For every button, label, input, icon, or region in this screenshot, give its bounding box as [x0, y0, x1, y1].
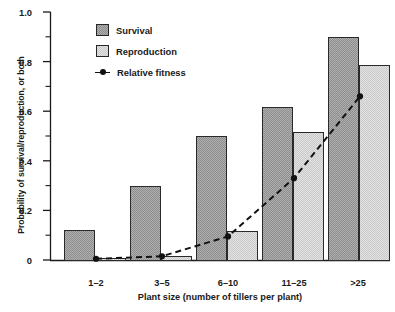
x-tick-label-1-2: 1–2: [88, 278, 103, 288]
legend-label-relative-fitness: Relative fitness: [117, 67, 186, 78]
x-tick-label-6-10: 6–10: [218, 278, 238, 288]
y-tick-label-0.4: 0.4: [6, 155, 32, 166]
x-tick-label-3-5: 3–5: [154, 278, 169, 288]
y-tick-label-0.2: 0.2: [6, 205, 32, 216]
bar-reproduction-3-5: [161, 256, 192, 261]
y-tick-label-0.6: 0.6: [6, 106, 32, 117]
y-tick-label-0.8: 0.8: [6, 56, 32, 67]
bar-reproduction-gt25: [359, 65, 390, 261]
y-tick-label-1.0: 1.0: [6, 7, 32, 18]
legend-label-reproduction: Reproduction: [116, 46, 177, 57]
legend-swatch-reproduction-icon: [96, 45, 109, 57]
x-tick-label-gt25: >25: [350, 278, 366, 288]
bar-reproduction-11-25: [293, 132, 324, 261]
bar-survival-6-10: [196, 136, 227, 261]
bar-survival-3-5: [130, 186, 161, 261]
legend-line-dot-icon: [95, 66, 110, 78]
x-tick-label-11-25: 11–25: [281, 278, 306, 288]
legend-item-survival: Survival: [96, 24, 152, 36]
bar-survival-11-25: [262, 107, 293, 261]
bar-survival-gt25: [328, 37, 359, 261]
legend-swatch-survival-icon: [96, 24, 109, 36]
bar-survival-1-2: [64, 230, 95, 261]
bar-reproduction-1-2: [95, 258, 126, 261]
legend-item-relative-fitness: Relative fitness: [95, 66, 186, 78]
legend-item-reproduction: Reproduction: [96, 45, 177, 57]
y-tick-label-0: 0: [6, 255, 32, 266]
chart-figure: Probability of survival/reproduction, or…: [0, 0, 395, 312]
bar-reproduction-6-10: [227, 231, 258, 261]
x-axis-title: Plant size (number of tillers per plant): [55, 292, 385, 302]
legend-label-survival: Survival: [116, 25, 152, 36]
